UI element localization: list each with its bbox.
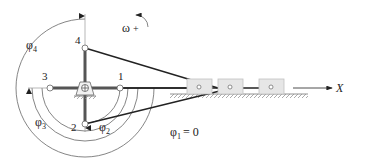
label-phi2: φ2 [99,120,110,136]
arc-arrowheads [26,13,91,131]
slider-crank-diagram: 4 3 1 2 φ4 φ3 φ2 φ1= 0 ω+ X [0,0,365,166]
pin-3 [47,85,53,91]
label-pos-3: 3 [42,70,48,82]
label-phi1: φ1= 0 [170,125,199,141]
label-phi3: φ3 [35,115,46,131]
label-pos-4: 4 [75,34,81,46]
pin-4 [82,45,88,51]
label-omega: ω+ [122,21,139,35]
pin-1 [117,85,123,91]
pin-2 [82,121,88,127]
label-pos-1: 1 [118,70,124,82]
label-pos-2: 2 [71,121,77,133]
fixed-pivot [74,82,96,99]
label-x-axis: X [335,81,344,95]
